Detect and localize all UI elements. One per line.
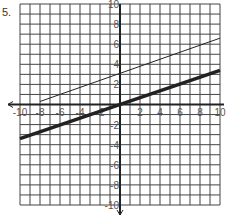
y-tick-label: -2	[110, 120, 119, 131]
y-tick-label: -6	[110, 160, 119, 171]
x-tick-label: -10	[13, 107, 28, 118]
y-tick-label: -8	[110, 180, 119, 191]
y-tick-label: 2	[113, 79, 119, 90]
coordinate-grid: -10-8-6-4-2246810108642-2-4-6-8-10	[0, 0, 227, 222]
x-tick-label: -8	[36, 107, 45, 118]
y-tick-label: -4	[110, 140, 119, 151]
x-tick-label: 8	[197, 107, 203, 118]
y-tick-label: 4	[113, 59, 119, 70]
y-tick-label: 6	[113, 39, 119, 50]
y-tick-label: -10	[105, 200, 120, 211]
y-tick-label: 10	[108, 0, 120, 10]
x-tick-label: -6	[56, 107, 65, 118]
x-tick-label: 2	[137, 107, 143, 118]
x-tick-label: 4	[157, 107, 163, 118]
y-tick-label: 8	[113, 19, 119, 30]
x-tick-label: 6	[177, 107, 183, 118]
x-tick-label: 10	[214, 107, 226, 118]
